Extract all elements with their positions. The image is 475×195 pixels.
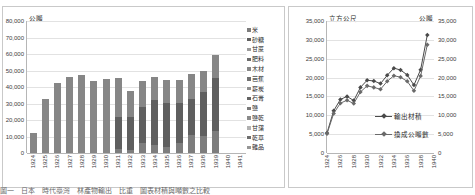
line-x-axis-tick: 1930 [364, 155, 370, 168]
legend-line-marker-icon [375, 113, 392, 120]
line-data-point [345, 98, 350, 103]
figure-container: 公噸 米砂糖甘蔗肥料木材芭蕉薪炭石膏鹽鹽乾甘藷乾草雜品 80,00070,000… [0, 0, 475, 195]
legend-item-label: 乾草 [252, 135, 264, 141]
bar-column [224, 21, 231, 153]
legend-line-marker-icon [375, 131, 392, 138]
legend-swatch-icon [247, 28, 251, 32]
bar-x-axis-tick: 1933 [140, 155, 146, 168]
bar-segment [200, 136, 207, 153]
legend-swatch-icon [247, 97, 251, 101]
legend-item[interactable]: 輸出材積 [375, 111, 429, 121]
bar-x-axis-tick: 1941 [237, 155, 243, 168]
bar-chart-legend: 米砂糖甘蔗肥料木材芭蕉薪炭石膏鹽鹽乾甘藷乾草雜品 [247, 25, 282, 152]
bar-segment [42, 99, 49, 153]
bar-plot-area [27, 21, 246, 153]
bar-segment [176, 143, 183, 153]
legend-item-label: 木材 [252, 66, 264, 72]
legend-item[interactable]: 木材 [247, 64, 282, 74]
line-y-axis-tick-right: 0 [438, 150, 441, 156]
bar-segment [139, 81, 146, 107]
legend-item[interactable]: 雜品 [247, 143, 282, 153]
bar-segment [163, 80, 170, 103]
line-y-axis-tick-left: 5,000 [289, 131, 324, 137]
bar-x-axis-tick: 1939 [213, 155, 219, 168]
line-y-axis-tick-left: 25,000 [289, 56, 324, 62]
legend-swatch-icon [247, 107, 251, 111]
bar-y-axis-tick: 80,000 [3, 18, 24, 24]
line-x-axis-tick: 1932 [378, 155, 384, 168]
bar-segment [163, 103, 170, 147]
line-y-axis-tick-right: 15,000 [438, 93, 456, 99]
legend-item[interactable]: 乾草 [247, 133, 282, 143]
bar-column [176, 21, 183, 153]
legend-swatch-icon [247, 38, 251, 42]
legend-swatch-icon [247, 116, 251, 120]
bar-y-axis-tick: 10,000 [3, 134, 24, 140]
bar-x-axis-tick: 1930 [103, 155, 109, 168]
legend-item[interactable]: 鹽乾 [247, 113, 282, 123]
legend-item[interactable]: 芭蕉 [247, 74, 282, 84]
gridline [27, 153, 246, 154]
legend-item[interactable]: 甘蔗 [247, 45, 282, 55]
bar-column [200, 21, 207, 153]
bar-y-axis-tick: 50,000 [3, 68, 24, 74]
bar-segment [115, 117, 122, 150]
bar-x-axis-tick: 1938 [200, 155, 206, 168]
line-y-axis-tick-left: 0 [289, 150, 324, 156]
line-y-axis-tick-right: 25,000 [438, 56, 456, 62]
bar-x-axis-tick: 1928 [79, 155, 85, 168]
legend-item-label: 米 [252, 27, 258, 33]
bar-segment [151, 145, 158, 153]
bar-segment [103, 79, 110, 153]
legend-item-label: 鹽 [252, 105, 258, 111]
line-data-point [372, 85, 377, 90]
bar-segment [54, 83, 61, 153]
bar-segment [127, 150, 134, 153]
line-x-axis-tick: 1926 [337, 155, 343, 168]
line-data-point [425, 33, 430, 38]
bar-column [115, 21, 122, 153]
legend-item-label: 芭蕉 [252, 76, 264, 82]
bar-y-axis-tick: 60,000 [3, 51, 24, 57]
legend-item[interactable]: 肥料 [247, 54, 282, 64]
bar-column [139, 21, 146, 153]
bar-column [212, 21, 219, 153]
bar-x-axis-tick: 1925 [42, 155, 48, 168]
legend-swatch-icon [247, 136, 251, 140]
bar-segment [200, 71, 207, 92]
bar-segment [30, 133, 37, 153]
bar-column [66, 21, 73, 153]
legend-item-label: 雜品 [252, 144, 264, 150]
bar-segment [212, 55, 219, 79]
line-y-axis-tick-left: 10,000 [289, 112, 324, 118]
bar-x-axis-tick: 1926 [54, 155, 60, 168]
legend-item-label: 甘蔗 [252, 46, 264, 52]
legend-item[interactable]: 石膏 [247, 94, 282, 104]
bar-segment [176, 80, 183, 102]
legend-item[interactable]: 換成公噸數 [375, 129, 429, 139]
legend-item[interactable]: 薪炭 [247, 84, 282, 94]
legend-item[interactable]: 鹽 [247, 103, 282, 113]
bar-y-axis-tick: 20,000 [3, 117, 24, 123]
bar-segment [200, 92, 207, 135]
legend-swatch-icon [247, 77, 251, 81]
bar-segment [212, 131, 219, 153]
bar-y-axis-tick: 0 [3, 150, 24, 156]
legend-item[interactable]: 甘藷 [247, 123, 282, 133]
legend-item[interactable]: 砂糖 [247, 35, 282, 45]
line-chart: 立方公尺 公噸 輸出材積換成公噸數 35,00035,00030,00030,0… [288, 6, 473, 188]
legend-item[interactable]: 米 [247, 25, 282, 35]
bar-segment [139, 107, 146, 143]
bar-segment [188, 74, 195, 99]
bar-segment [212, 78, 219, 131]
bar-column [103, 21, 110, 153]
line-y-axis-tick-right: 35,000 [438, 18, 456, 24]
bar-column [30, 21, 37, 153]
bar-column [236, 21, 243, 153]
line-y-axis-tick-left: 35,000 [289, 18, 324, 24]
bar-x-axis-tick: 1935 [164, 155, 170, 168]
bar-column [90, 21, 97, 153]
line-y-axis-tick-right: 10,000 [438, 112, 456, 118]
line-x-axis-tick: 1936 [404, 155, 410, 168]
legend-swatch-icon [247, 146, 251, 150]
